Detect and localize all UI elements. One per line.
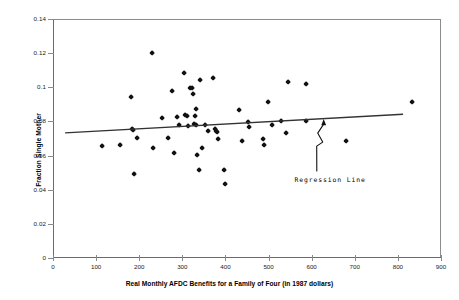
y-tick [48,156,54,157]
y-tick [48,190,54,191]
x-tick-label: 600 [297,263,327,270]
x-tick [398,255,399,261]
x-tick-label: 900 [426,263,456,270]
x-tick [139,255,140,261]
x-tick-label: 200 [124,263,154,270]
x-tick-label: 0 [38,263,68,270]
x-tick-label: 500 [254,263,284,270]
y-tick-label: 0.1 [37,83,46,90]
x-tick [225,255,226,261]
x-tick [53,255,54,261]
regression-line-annotation: Regression Line [294,176,365,184]
y-tick [48,87,54,88]
x-tick-label: 100 [81,263,111,270]
x-tick [355,255,356,261]
x-tick [182,255,183,261]
x-tick-label: 300 [167,263,197,270]
x-tick-label: 400 [210,263,240,270]
y-tick [48,53,54,54]
y-axis-title: Fraction Single Mother [35,113,42,187]
x-tick [312,255,313,261]
x-tick-label: 800 [383,263,413,270]
x-tick [269,255,270,261]
y-tick-label: 0.12 [34,49,46,56]
x-tick [96,255,97,261]
x-tick-label: 700 [340,263,370,270]
x-tick [441,255,442,261]
y-tick [48,19,54,20]
y-tick [48,224,54,225]
scatter-plot-figure: 00.020.040.060.080.10.120.14 01002003004… [0,0,459,300]
y-tick-label: 0.14 [34,15,46,22]
y-tick-label: 0 [42,254,46,261]
y-tick [48,121,54,122]
plot-area [53,19,441,258]
y-tick-label: 0.02 [34,220,46,227]
x-axis-title: Real Monthly AFDC Benefits for a Family … [0,280,459,287]
